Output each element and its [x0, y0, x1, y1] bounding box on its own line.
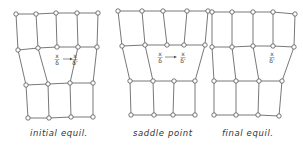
atom-node	[129, 113, 133, 117]
atom-node	[251, 10, 255, 14]
bond-line	[70, 83, 71, 117]
bond-line	[26, 85, 28, 118]
bond-line	[282, 47, 294, 81]
bond-line	[184, 11, 187, 45]
atom-node	[24, 83, 28, 87]
atom-node	[14, 12, 18, 16]
atom-node	[91, 115, 95, 119]
bond-line	[18, 48, 38, 50]
bond-line	[153, 81, 154, 115]
bond-line	[18, 50, 26, 85]
atom-node	[212, 79, 216, 83]
bond-line	[77, 13, 78, 47]
atom-node	[55, 45, 59, 49]
label-x: x	[181, 50, 185, 57]
bond-line	[294, 14, 295, 47]
bond-line	[273, 46, 294, 47]
panel-initial-equilibrium: xδxδ'initial equil.	[14, 11, 100, 138]
label-delta: δ	[158, 57, 162, 64]
atom-node	[172, 79, 176, 83]
bond-line	[163, 11, 167, 45]
atom-node	[69, 115, 73, 119]
bond-line	[253, 46, 259, 81]
atom-node	[171, 113, 175, 117]
panel-caption: initial equil.	[30, 128, 88, 138]
atom-node	[271, 44, 275, 48]
bond-line	[118, 11, 122, 46]
atom-node	[46, 82, 50, 86]
bond-line	[279, 81, 282, 116]
bond-line	[273, 12, 295, 14]
bond-line	[26, 84, 48, 85]
atom-node	[280, 79, 284, 83]
bond-line	[212, 47, 214, 81]
panel-caption: final equil.	[222, 128, 274, 138]
arrow-right-icon	[174, 56, 177, 59]
atom-node	[212, 113, 216, 117]
bond-line	[232, 46, 253, 47]
atom-node	[277, 114, 281, 118]
atom-node	[26, 116, 30, 120]
atom-node	[34, 12, 38, 16]
atom-node	[76, 45, 80, 49]
label-delta: δ'	[269, 57, 275, 64]
atom-node	[185, 9, 189, 13]
atom-node	[96, 11, 100, 15]
label-x: x	[158, 50, 162, 57]
atom-node	[230, 45, 234, 49]
atom-node	[193, 79, 197, 83]
atom-node	[230, 10, 234, 14]
bond-line	[173, 81, 174, 115]
atom-node	[75, 11, 79, 15]
bond-line	[48, 83, 70, 84]
atom-node	[165, 43, 169, 47]
lattice-diagram: xδxδ'initial equil. xδxδ'saddle point xδ…	[0, 0, 303, 148]
panel-saddle-point: xδxδ'saddle point	[116, 9, 210, 138]
atom-node	[152, 113, 156, 117]
atom-node	[182, 43, 186, 47]
bond-line	[49, 117, 71, 118]
bond-line	[97, 13, 98, 47]
atom-node	[257, 79, 261, 83]
label-delta: δ'	[72, 59, 78, 66]
atom-node	[36, 46, 40, 50]
bond-line	[38, 47, 57, 48]
atom-node	[210, 45, 214, 49]
atom-node	[140, 9, 144, 13]
label-x: x	[73, 52, 77, 59]
bond-line	[195, 45, 205, 81]
atom-node	[120, 44, 124, 48]
atom-node	[234, 113, 238, 117]
atom-node	[143, 43, 147, 47]
atom-node	[271, 10, 275, 14]
lattice-nodes	[210, 10, 297, 118]
atom-node	[16, 48, 20, 52]
bond-line	[145, 45, 153, 81]
bond-line	[205, 11, 208, 45]
bond-line	[130, 81, 131, 115]
atom-node	[91, 81, 95, 85]
bond-line	[258, 115, 279, 116]
atom-node	[95, 45, 99, 49]
bond-line	[93, 47, 97, 83]
atom-node	[54, 11, 58, 15]
bond-line	[48, 84, 49, 118]
bond-line	[36, 14, 38, 48]
bond-line	[258, 81, 259, 115]
bond-line	[36, 13, 56, 14]
atom-node	[234, 79, 238, 83]
atom-node	[161, 9, 165, 13]
atom-node	[68, 81, 72, 85]
atom-node	[193, 113, 197, 117]
bond-line	[232, 47, 236, 81]
atom-node	[210, 10, 214, 14]
lattice-nodes	[116, 9, 210, 117]
label-x: x	[55, 52, 59, 59]
bond-line	[122, 46, 130, 81]
atom-node	[293, 12, 297, 16]
atom-node	[47, 116, 51, 120]
panel-caption: saddle point	[133, 128, 193, 138]
lattice-edges	[212, 12, 295, 116]
label-delta: δ'	[180, 57, 186, 64]
panel-final-equilibrium: xδ'final equil.	[210, 10, 297, 138]
